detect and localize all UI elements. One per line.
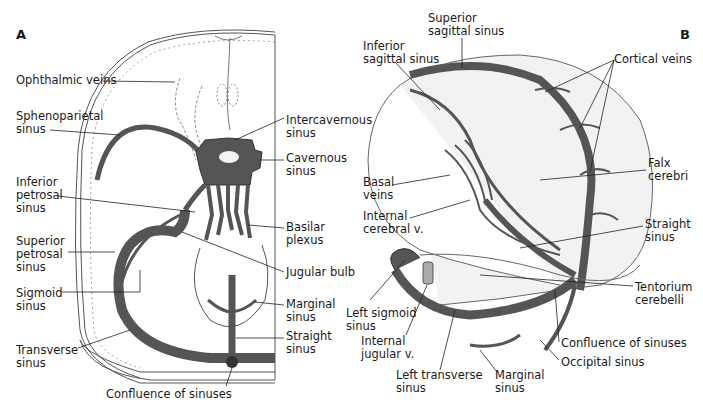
label-marginal-sinus: Marginal sinus — [286, 298, 336, 324]
label-transverse-sinus: Transverse sinus — [16, 344, 78, 370]
label-jugular-bulb: Jugular bulb — [286, 266, 355, 279]
panel-a-letter: A — [16, 27, 26, 42]
label-inferior-sagittal-sinus: Inferior sagittal sinus — [363, 40, 439, 66]
label-sigmoid-sinus: Sigmoid sinus — [16, 287, 63, 313]
label-sphenoparietal-sinus: Sphenoparietal sinus — [16, 110, 103, 136]
label-basal-veins: Basal veins — [363, 176, 394, 202]
label-straight-sinus: Straight sinus — [286, 330, 332, 356]
label-left-sigmoid-sinus: Left sigmoid sinus — [346, 307, 417, 333]
label-basilar-plexus: Basilar plexus — [286, 221, 325, 247]
label-cortical-veins: Cortical veins — [614, 53, 692, 66]
label-tentorium-cerebelli: Tentorium cerebelli — [635, 281, 692, 307]
label-inferior-petrosal-sinus: Inferior petrosal sinus — [16, 176, 63, 215]
label-intercavernous-sinus: Intercavernous sinus — [286, 114, 372, 140]
label-occipital-sinus: Occipital sinus — [561, 356, 645, 369]
label-ophthalmic-veins: Ophthalmic veins — [16, 74, 116, 87]
label-marginal-sinus-b: Marginal sinus — [495, 369, 545, 395]
label-falx-cerebri: Falx cerebri — [648, 157, 688, 183]
label-straight-sinus-b: Straight sinus — [645, 218, 691, 244]
panel-b-letter: B — [680, 27, 690, 42]
label-internal-cerebral-v: Internal cerebral v. — [363, 210, 423, 236]
label-confluence-of-sinuses-b: Confluence of sinuses — [561, 337, 687, 350]
label-left-transverse-sinus: Left transverse sinus — [396, 369, 483, 395]
label-cavernous-sinus: Cavernous sinus — [286, 152, 347, 178]
label-confluence-of-sinuses: Confluence of sinuses — [106, 388, 232, 401]
label-superior-petrosal-sinus: Superior petrosal sinus — [16, 235, 65, 274]
label-superior-sagittal-sinus: Superior sagittal sinus — [428, 12, 504, 38]
label-internal-jugular-v: Internal jugular v. — [361, 335, 414, 361]
